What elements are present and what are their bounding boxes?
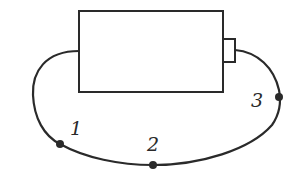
diagram-svg: 1 2 3: [0, 0, 301, 190]
point-3-dot: [275, 93, 283, 101]
point-3-label: 3: [251, 89, 263, 111]
point-1-dot: [56, 140, 64, 148]
battery-body: [79, 11, 223, 92]
circuit-diagram: 1 2 3: [0, 0, 301, 190]
point-1-label: 1: [70, 117, 82, 139]
battery-terminal: [223, 39, 235, 62]
point-2-label: 2: [146, 133, 159, 155]
point-2-dot: [149, 161, 157, 169]
